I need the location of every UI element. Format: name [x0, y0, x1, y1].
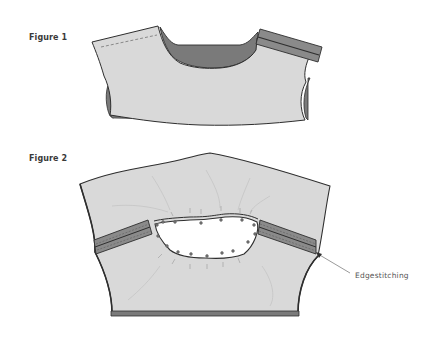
figure-2-hem-band: [111, 311, 299, 316]
figure-2-illustration: [80, 153, 350, 316]
figure-1-illustration: [92, 26, 322, 125]
diagram-canvas: [0, 0, 441, 338]
edgestitching-leader-line: [318, 254, 350, 273]
